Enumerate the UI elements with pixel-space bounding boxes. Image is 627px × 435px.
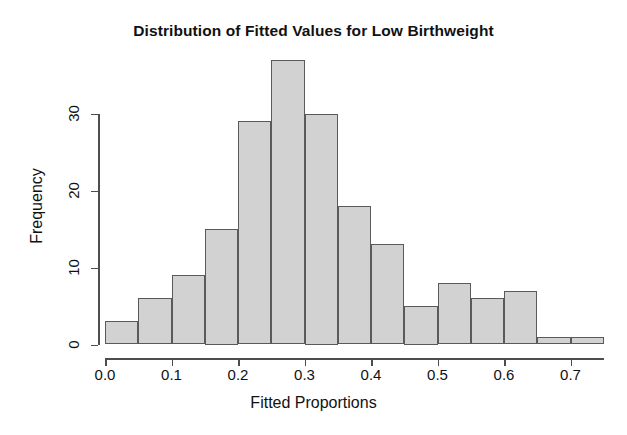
x-tick-mark (105, 359, 107, 366)
chart-title: Distribution of Fitted Values for Low Bi… (0, 22, 627, 40)
histogram-plot: Distribution of Fitted Values for Low Bi… (0, 0, 627, 435)
y-tick-label: 10 (65, 252, 82, 282)
x-tick-label: 0.5 (415, 366, 461, 383)
x-tick-label: 0.0 (82, 366, 128, 383)
x-tick-label: 0.2 (215, 366, 261, 383)
x-tick-mark (571, 359, 573, 366)
histogram-bar (138, 298, 171, 344)
x-tick-label: 0.1 (149, 366, 195, 383)
x-tick-mark (504, 359, 506, 366)
histogram-bar (238, 121, 271, 344)
y-tick-mark (91, 268, 98, 270)
x-axis-line (105, 358, 604, 360)
x-tick-mark (371, 359, 373, 366)
x-tick-mark (305, 359, 307, 366)
y-axis-line (98, 114, 100, 345)
x-tick-mark (172, 359, 174, 366)
y-tick-mark (91, 114, 98, 116)
x-tick-label: 0.3 (282, 366, 328, 383)
y-tick-label: 20 (65, 175, 82, 205)
histogram-bar (271, 60, 304, 345)
histogram-bar (404, 306, 437, 345)
y-tick-mark (91, 191, 98, 193)
x-axis-label: Fitted Proportions (0, 394, 627, 412)
x-tick-label: 0.7 (548, 366, 594, 383)
x-tick-mark (438, 359, 440, 366)
histogram-bar (537, 337, 570, 345)
histogram-bar (105, 321, 138, 344)
x-tick-mark (238, 359, 240, 366)
y-tick-label: 30 (65, 98, 82, 128)
x-tick-label: 0.6 (481, 366, 527, 383)
y-tick-mark (91, 345, 98, 347)
y-tick-label: 0 (65, 329, 82, 359)
histogram-bar (172, 275, 205, 344)
histogram-bar (305, 114, 338, 345)
histogram-bar (438, 283, 471, 345)
histogram-bar (471, 298, 504, 344)
histogram-bar (504, 291, 537, 345)
x-tick-label: 0.4 (348, 366, 394, 383)
histogram-bar (571, 337, 604, 345)
histogram-bar (205, 229, 238, 345)
histogram-bar (338, 206, 371, 345)
histogram-bar (371, 244, 404, 344)
y-axis-label: Frequency (28, 106, 46, 306)
